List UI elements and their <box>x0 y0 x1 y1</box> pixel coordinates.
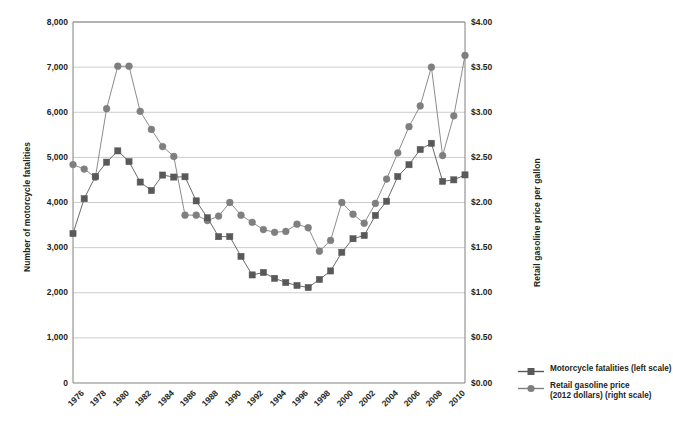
data-point-marker <box>327 237 334 244</box>
data-point-marker <box>115 148 121 154</box>
data-point-marker <box>372 200 379 207</box>
data-point-marker <box>338 199 345 206</box>
data-point-marker <box>361 232 367 238</box>
data-point-marker <box>394 149 401 156</box>
legend-item-gasoline: Retail gasoline price (2012 dollars) (ri… <box>518 381 673 402</box>
y-axis-right-tick-label: $0.50 <box>471 332 492 342</box>
circle-line-key-icon <box>518 384 544 393</box>
data-point-marker <box>170 153 177 160</box>
data-point-marker <box>114 63 121 70</box>
y-axis-left-tick-label: 1,000 <box>18 332 68 342</box>
data-point-marker <box>216 234 222 240</box>
data-point-marker <box>361 220 368 227</box>
data-point-marker <box>238 212 245 219</box>
data-point-marker <box>372 212 378 218</box>
data-point-marker <box>182 174 188 180</box>
chart-figure: Number of motorcycle fatalities Retail g… <box>0 0 673 436</box>
data-point-marker <box>70 161 77 168</box>
data-point-marker <box>406 123 413 130</box>
data-point-marker <box>451 177 457 183</box>
y-axis-left-tick-label: 4,000 <box>18 197 68 207</box>
data-point-marker <box>328 268 334 274</box>
y-axis-right-tick-label: $4.00 <box>471 17 492 27</box>
data-point-marker <box>294 282 300 288</box>
data-point-marker <box>204 215 210 221</box>
data-point-marker <box>305 284 311 290</box>
data-point-marker <box>148 126 155 133</box>
data-point-marker <box>395 173 401 179</box>
data-point-marker <box>406 162 412 168</box>
y-axis-left-tick-label: 8,000 <box>18 17 68 27</box>
data-point-marker <box>160 172 166 178</box>
legend-label-gasoline-line2: (2012 dollars) (right scale) <box>550 391 651 400</box>
data-point-marker <box>215 213 222 220</box>
data-point-marker <box>316 276 322 282</box>
data-point-marker <box>417 103 424 110</box>
data-point-marker <box>350 211 357 218</box>
data-point-marker <box>103 105 110 112</box>
data-point-marker <box>70 230 76 236</box>
data-point-marker <box>305 224 312 231</box>
data-point-marker <box>316 248 323 255</box>
data-point-marker <box>260 226 267 233</box>
data-point-marker <box>350 236 356 242</box>
data-point-marker <box>182 212 189 219</box>
y-axis-left-tick-label: 6,000 <box>18 107 68 117</box>
data-point-marker <box>462 52 469 59</box>
plot-area <box>73 22 465 383</box>
y-axis-right-tick-label: $2.00 <box>471 197 492 207</box>
y-axis-left-tick-label: 5,000 <box>18 152 68 162</box>
plot-canvas <box>73 22 465 383</box>
data-point-marker <box>137 179 143 185</box>
data-point-marker <box>283 279 289 285</box>
data-point-marker <box>227 234 233 240</box>
legend-label-fatalities: Motorcycle fatalities (left scale) <box>550 364 673 375</box>
series-line <box>73 55 465 251</box>
data-point-marker <box>238 253 244 259</box>
data-point-marker <box>417 146 423 152</box>
data-point-marker <box>193 198 199 204</box>
data-point-marker <box>249 219 256 226</box>
data-point-marker <box>450 112 457 119</box>
data-point-marker <box>159 143 166 150</box>
y-axis-right-tick-label: $3.00 <box>471 107 492 117</box>
data-point-marker <box>384 198 390 204</box>
y-axis-right-title: Retail gasoline price per gallon <box>532 158 542 287</box>
chart-legend: Motorcycle fatalities (left scale) Retai… <box>518 364 673 408</box>
y-axis-right-tick-label: $2.50 <box>471 152 492 162</box>
data-point-marker <box>171 174 177 180</box>
y-axis-left-tick-label: 3,000 <box>18 242 68 252</box>
data-point-marker <box>439 152 446 159</box>
data-point-marker <box>148 187 154 193</box>
data-point-marker <box>428 140 434 146</box>
data-point-marker <box>249 272 255 278</box>
data-point-marker <box>81 196 87 202</box>
data-point-marker <box>462 172 468 178</box>
data-point-marker <box>226 199 233 206</box>
data-point-marker <box>440 178 446 184</box>
series-motorcycle-fatalities <box>70 140 468 290</box>
data-point-marker <box>282 228 289 235</box>
data-point-marker <box>126 63 133 70</box>
data-point-marker <box>428 64 435 71</box>
y-axis-left-tick-label: 7,000 <box>18 62 68 72</box>
data-point-marker <box>81 166 88 173</box>
data-point-marker <box>383 176 390 183</box>
data-point-marker <box>271 229 278 236</box>
data-point-marker <box>260 269 266 275</box>
data-point-marker <box>294 221 301 228</box>
square-line-key-icon <box>518 367 544 376</box>
data-point-marker <box>339 249 345 255</box>
y-axis-left-tick-label: 0 <box>18 378 68 388</box>
y-axis-right-tick-label: $1.50 <box>471 242 492 252</box>
data-point-marker <box>137 108 144 115</box>
series-retail-gasoline-price <box>70 52 469 255</box>
data-point-marker <box>126 159 132 165</box>
y-axis-right-tick-label: $3.50 <box>471 62 492 72</box>
legend-label-gasoline-line1: Retail gasoline price <box>550 381 630 390</box>
y-axis-left-tick-label: 2,000 <box>18 287 68 297</box>
legend-item-fatalities: Motorcycle fatalities (left scale) <box>518 364 673 375</box>
y-axis-right-tick-label: $0.00 <box>471 378 492 388</box>
data-point-marker <box>193 212 200 219</box>
data-point-marker <box>92 173 98 179</box>
